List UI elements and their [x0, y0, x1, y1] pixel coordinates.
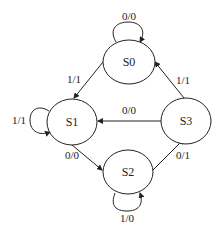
state-s0: S0 [103, 40, 155, 84]
state-diagram: S0 S1 S2 S3 0/0 1/1 1/1 0/0 1/0 0/1 0/0 … [0, 0, 222, 230]
transition-label-s3-s1: 0/0 [122, 104, 137, 116]
transition-label-s1-s2: 0/0 [65, 149, 80, 161]
state-label: S3 [180, 114, 193, 128]
transition-label-s2-s2: 1/0 [120, 212, 135, 224]
state-label: S0 [123, 55, 136, 69]
state-label: S2 [122, 165, 135, 179]
transition-label-s1-s1: 1/1 [12, 114, 26, 126]
state-s1: S1 [47, 99, 97, 145]
transition-label-s0-s1: 1/1 [67, 73, 81, 85]
transition-s2-s2 [113, 193, 141, 211]
state-label: S1 [66, 115, 79, 129]
transition-label-s3-s0: 1/1 [176, 74, 190, 86]
state-s3: S3 [161, 98, 211, 144]
transition-s0-s0 [113, 22, 143, 42]
state-s2: S2 [103, 150, 153, 194]
transition-label-s2-s3: 0/1 [176, 149, 190, 161]
transition-label-s0-s0: 0/0 [122, 10, 137, 22]
